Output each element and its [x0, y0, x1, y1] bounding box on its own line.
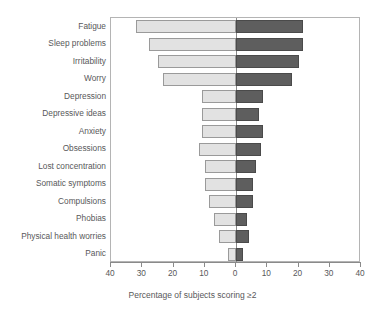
bar-left: [136, 20, 236, 33]
bar-right: [236, 90, 263, 103]
x-axis: 40302010010203040: [110, 262, 360, 292]
bar-left: [219, 230, 236, 243]
axis-tick-label: 0: [220, 268, 250, 278]
bar-left: [149, 38, 237, 51]
bar-right: [236, 108, 259, 121]
bar-row: [111, 106, 361, 124]
bar-right: [236, 125, 263, 138]
bar-left: [205, 160, 236, 173]
category-label: Irritability: [0, 56, 106, 66]
axis-tick-label: 40: [345, 268, 375, 278]
bar-left: [228, 248, 236, 261]
bar-row: [111, 158, 361, 176]
bar-row: [111, 176, 361, 194]
category-label: Depression: [0, 91, 106, 101]
axis-tick-label: 20: [158, 268, 188, 278]
bar-left: [202, 108, 236, 121]
category-label: Lost concentration: [0, 161, 106, 171]
bar-left: [199, 143, 237, 156]
bar-right: [236, 248, 243, 261]
bar-right: [236, 143, 261, 156]
bar-right: [236, 55, 299, 68]
category-label: Somatic symptoms: [0, 178, 106, 188]
bar-right: [236, 213, 247, 226]
bar-row: [111, 53, 361, 71]
axis-line: [110, 262, 360, 263]
axis-tick-label: 30: [126, 268, 156, 278]
bar-left: [202, 90, 236, 103]
bar-left: [205, 178, 236, 191]
bar-left: [209, 195, 236, 208]
category-label: Fatigue: [0, 21, 106, 31]
category-label: Obsessions: [0, 143, 106, 153]
bar-right: [236, 73, 292, 86]
bar-row: [111, 36, 361, 54]
category-label: Worry: [0, 73, 106, 83]
axis-tick: [360, 262, 361, 267]
category-label: Physical health worries: [0, 231, 106, 241]
bar-row: [111, 141, 361, 159]
bar-left: [158, 55, 236, 68]
x-axis-title: Percentage of subjects scoring ≥2: [0, 290, 385, 300]
plot-area: [110, 17, 360, 262]
category-label: Compulsions: [0, 196, 106, 206]
category-label: Panic: [0, 248, 106, 258]
bar-row: [111, 123, 361, 141]
bar-row: [111, 193, 361, 211]
bar-right: [236, 20, 303, 33]
axis-tick-label: 20: [283, 268, 313, 278]
axis-tick-label: 30: [314, 268, 344, 278]
bar-row: [111, 18, 361, 36]
bar-row: [111, 71, 361, 89]
bar-left: [202, 125, 236, 138]
bar-right: [236, 195, 253, 208]
bar-right: [236, 230, 249, 243]
bar-left: [163, 73, 236, 86]
diverging-bar-chart: FatigueSleep problemsIrritabilityWorryDe…: [0, 0, 385, 311]
bar-row: [111, 211, 361, 229]
category-label: Sleep problems: [0, 38, 106, 48]
bar-right: [236, 160, 256, 173]
category-label: Depressive ideas: [0, 108, 106, 118]
bar-row: [111, 228, 361, 246]
axis-tick-label: 10: [251, 268, 281, 278]
bar-row: [111, 88, 361, 106]
bar-right: [236, 178, 253, 191]
bar-left: [214, 213, 236, 226]
category-label: Phobias: [0, 213, 106, 223]
axis-tick-label: 10: [189, 268, 219, 278]
bar-row: [111, 246, 361, 264]
category-label: Anxiety: [0, 126, 106, 136]
axis-tick-label: 40: [95, 268, 125, 278]
bar-right: [236, 38, 303, 51]
